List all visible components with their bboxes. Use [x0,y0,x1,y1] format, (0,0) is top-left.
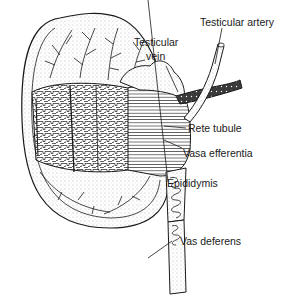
label-epididymis: Epididymis [167,177,218,189]
label-testicular-artery: Testicular artery [200,16,274,28]
label-vas-deferens: Vas deferens [180,235,241,247]
label-testicular-vein-line1: Testicular [134,36,178,48]
label-rete-tubule: Rete tubule [188,122,242,134]
vas-deferens [168,220,186,294]
testicular-artery [184,43,224,122]
label-testicular-vein-line2: vein [146,50,165,62]
label-vasa-efferentia: Vasa efferentia [183,147,253,159]
diagram-stage: Testicular artery Testicular vein Rete t… [0,0,292,303]
